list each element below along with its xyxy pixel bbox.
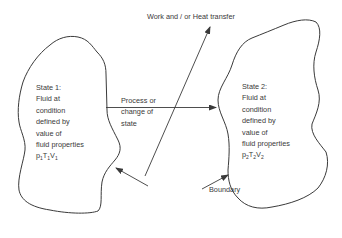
state2-line-6: fluid properties [242, 138, 290, 149]
work-heat-transfer-text: Work and / or Heat transfer [147, 11, 235, 22]
process-line-3: state [121, 118, 156, 129]
process-label: Process or change of state [121, 95, 156, 129]
state1-description: State 1: Fluid at condition defined by v… [36, 82, 84, 162]
state1-line-3: condition [36, 105, 84, 116]
boundary-arrow-left [116, 168, 148, 186]
state2-description: State 2: Fluid at condition defined by v… [242, 81, 290, 161]
state2-line-2: Fluid at [242, 92, 290, 103]
state1-line-6: fluid properties [36, 139, 84, 150]
state1-volume-subscript: 1 [55, 155, 58, 161]
process-line-2: change of [121, 106, 156, 117]
boundary-text: Boundary [209, 184, 240, 195]
state2-line-5: value of [242, 127, 290, 138]
state1-line-2: Fluid at [36, 93, 84, 104]
state2-volume-subscript: 2 [261, 154, 264, 160]
state1-line-5: value of [36, 128, 84, 139]
boundary-label: Boundary [209, 184, 240, 195]
state2-line-3: condition [242, 104, 290, 115]
state1-line-1: State 1: [36, 82, 84, 93]
state2-line-1: State 2: [242, 81, 290, 92]
state2-line-4: defined by [242, 115, 290, 126]
state1-properties: p1T1V1 [36, 150, 84, 161]
state2-properties: p2T2V2 [242, 149, 290, 160]
work-heat-transfer-label: Work and / or Heat transfer [147, 11, 235, 22]
state1-line-4: defined by [36, 116, 84, 127]
process-line-1: Process or [121, 95, 156, 106]
